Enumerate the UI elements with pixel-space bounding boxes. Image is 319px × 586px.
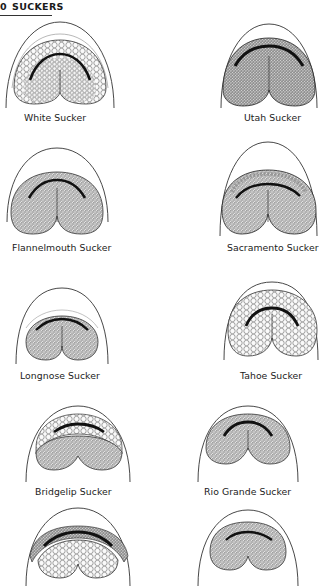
figure-utah-sucker (219, 20, 319, 110)
page-number: 0 (0, 1, 7, 12)
figure-longnose-sucker (14, 286, 110, 366)
flannelmouth-sucker-mouth-drawing (5, 146, 110, 236)
page-header: 0 SUCKERS (0, 1, 52, 16)
figure-tahoe-sucker (222, 280, 319, 362)
longnose-sucker-mouth-drawing (14, 286, 110, 366)
figure-unlabeled-left (24, 506, 134, 586)
utah-sucker-mouth-drawing (219, 20, 319, 110)
figure-caption: Utah Sucker (244, 112, 301, 123)
sucker-mouth-drawing-left (24, 506, 134, 586)
sucker-mouth-drawing-right (196, 508, 300, 586)
sacramento-sucker-mouth-drawing (218, 138, 319, 238)
figure-caption: Flannelmouth Sucker (12, 242, 111, 253)
white-sucker-mouth-drawing (2, 18, 117, 110)
figure-flannelmouth-sucker (5, 146, 110, 236)
figure-caption: Bridgelip Sucker (35, 486, 112, 497)
bridgelip-sucker-mouth-drawing (24, 404, 134, 484)
figure-caption: White Sucker (24, 112, 86, 123)
figure-unlabeled-right (196, 508, 300, 586)
figure-caption: Rio Grande Sucker (204, 486, 291, 497)
figure-white-sucker (2, 18, 117, 110)
figure-bridgelip-sucker (24, 404, 134, 484)
rio-grande-sucker-mouth-drawing (196, 402, 300, 484)
tahoe-sucker-mouth-drawing (222, 280, 319, 362)
section-title: SUCKERS (12, 1, 64, 12)
figure-caption: Sacramento Sucker (227, 242, 319, 253)
figure-sacramento-sucker (218, 138, 319, 238)
figure-caption: Tahoe Sucker (240, 370, 302, 381)
figure-caption: Longnose Sucker (20, 370, 100, 381)
figure-rio-grande-sucker (196, 402, 300, 484)
